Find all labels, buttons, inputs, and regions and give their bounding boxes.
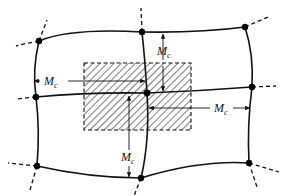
mc-label-right: Mc xyxy=(213,101,228,117)
node-bot-right xyxy=(246,160,252,166)
mc-label-top: Mc xyxy=(156,44,171,60)
hatched-region xyxy=(84,63,191,130)
node-mid-left xyxy=(33,94,39,100)
node-top-left xyxy=(36,38,42,44)
mc-label-left: Mc xyxy=(43,74,58,90)
grid-diagram: Mc Mc Mc Mc xyxy=(0,0,285,196)
node-top-right xyxy=(242,24,248,30)
node-mid-right xyxy=(249,84,255,90)
diagram-canvas: Mc Mc Mc Mc xyxy=(0,0,285,196)
node-bot-left xyxy=(34,163,40,169)
mc-label-bottom: Mc xyxy=(120,150,135,166)
node-bot-mid xyxy=(138,175,144,181)
node-top-mid xyxy=(139,29,145,35)
node-center xyxy=(144,90,151,97)
